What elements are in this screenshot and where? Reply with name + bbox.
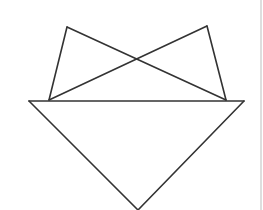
edge-FG	[138, 101, 244, 210]
geometric-diagram	[0, 0, 263, 210]
edge-CA	[49, 27, 67, 100]
edge-EG	[29, 101, 138, 210]
edge-BC	[49, 26, 207, 100]
edge-DB	[207, 26, 226, 100]
diagram-edges	[29, 26, 244, 210]
edge-AD	[67, 27, 226, 100]
